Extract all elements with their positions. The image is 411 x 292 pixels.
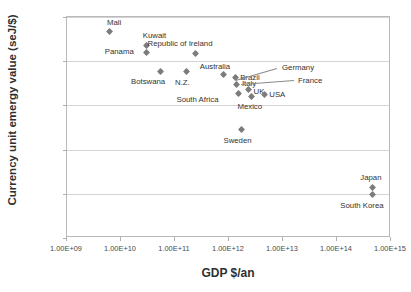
y-tick-mark — [63, 150, 67, 151]
data-point-marker — [157, 68, 164, 75]
data-point-marker — [369, 191, 376, 198]
x-tick-mark — [66, 237, 67, 241]
data-point-label: Sweden — [223, 137, 251, 145]
data-point-label: Republic of Ireland — [148, 40, 213, 48]
x-tick-mark — [282, 237, 283, 241]
x-tick-label: 1.00E+15 — [358, 244, 411, 253]
data-point-label: Panama — [105, 48, 134, 56]
y-tick-mark — [63, 61, 67, 62]
x-tick-mark — [336, 237, 337, 241]
callout-label: Germany — [282, 64, 314, 72]
data-point-marker — [143, 49, 150, 56]
data-point-label: Japan — [360, 174, 381, 182]
callout-label: France — [298, 77, 322, 85]
data-point-marker — [192, 50, 199, 57]
x-tick-mark — [120, 237, 121, 241]
x-axis-title: GDP $/an — [66, 266, 390, 280]
y-tick-mark — [63, 17, 67, 18]
y-tick-mark — [63, 105, 67, 106]
data-point-label: Australia — [200, 63, 230, 71]
data-point-marker — [182, 68, 189, 75]
data-point-label: Botswana — [131, 78, 165, 86]
data-point-marker — [238, 126, 245, 133]
data-point-label: Mali — [107, 19, 121, 27]
data-point-label: N.Z. — [175, 79, 190, 87]
x-tick-mark — [228, 237, 229, 241]
data-point-label: South Africa — [177, 96, 219, 104]
y-tick-mark — [63, 194, 67, 195]
gridline — [67, 150, 389, 151]
data-point-marker — [220, 71, 227, 78]
plot-area: MaliKuwaitPanamaBotswanaRepublic of Irel… — [66, 16, 390, 237]
data-point-marker — [105, 28, 112, 35]
data-point-marker — [235, 90, 242, 97]
data-point-label: South Korea — [340, 202, 383, 210]
data-point-label: Mexico — [237, 103, 262, 111]
y-axis-title: Currency unit emergy value (seJ/$) — [6, 0, 18, 226]
gridline — [67, 105, 389, 106]
data-point-label: USA — [269, 91, 285, 99]
x-tick-mark — [390, 237, 391, 241]
x-tick-mark — [174, 237, 175, 241]
gridline — [67, 194, 389, 195]
